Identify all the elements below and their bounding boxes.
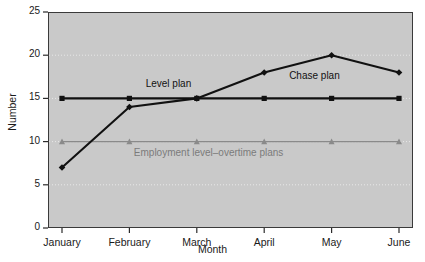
data-point-marker (328, 52, 335, 59)
data-point-marker (261, 69, 268, 76)
data-point-marker (396, 96, 401, 101)
series-label: Employment level–overtime plans (134, 147, 284, 158)
y-axis-tick-label: 10 (6, 135, 40, 146)
data-point-marker (329, 96, 334, 101)
data-point-marker (59, 96, 64, 101)
y-axis-tick-label: 15 (6, 91, 40, 102)
series-label: Chase plan (289, 70, 340, 81)
x-axis-tick-label: June (354, 236, 425, 248)
data-point-marker (127, 96, 132, 101)
series-label: Level plan (146, 78, 192, 89)
y-axis-tick-label: 20 (6, 48, 40, 59)
line-chart: Number Month 0510152025 JanuaryFebruaryM… (0, 0, 425, 262)
data-point-marker (262, 96, 267, 101)
y-axis-tick-label: 25 (6, 5, 40, 16)
data-point-marker (396, 69, 403, 76)
y-axis-tick-label: 0 (6, 221, 40, 232)
chart-canvas (0, 0, 425, 262)
y-axis-tick-label: 5 (6, 178, 40, 189)
